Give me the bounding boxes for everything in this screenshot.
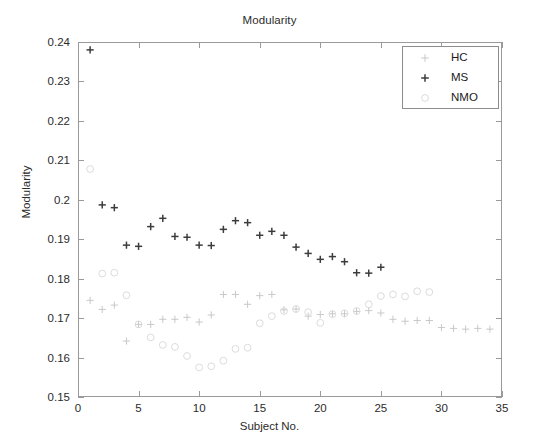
data-point (305, 313, 312, 320)
y-tick-label: 0.24 (14, 36, 70, 48)
data-point (377, 293, 384, 300)
data-point (474, 325, 481, 332)
data-point (159, 316, 166, 323)
data-point (256, 320, 263, 327)
legend[interactable]: HC MS NMO (402, 46, 499, 109)
data-point (220, 291, 227, 298)
x-tick-label: 35 (482, 402, 522, 414)
data-point (172, 344, 179, 351)
data-point (183, 314, 190, 321)
legend-label-nmo: NMO (451, 91, 478, 103)
legend-item-0[interactable]: HC (403, 48, 500, 69)
x-tick-label: 5 (119, 402, 159, 414)
series-ms (87, 46, 385, 276)
data-point (123, 292, 130, 299)
data-point (402, 293, 409, 300)
data-point (365, 270, 372, 277)
data-point (99, 306, 106, 313)
y-tick-label: 0.22 (14, 115, 70, 127)
data-point (196, 242, 203, 249)
data-point (317, 319, 324, 326)
data-point (208, 363, 215, 370)
y-tick-label: 0.23 (14, 75, 70, 87)
data-point (183, 234, 190, 241)
data-point (486, 326, 493, 333)
figure-canvas: Modularity Modularity Subject No. 0.150.… (0, 0, 539, 448)
data-point (111, 269, 118, 276)
data-point (196, 364, 203, 371)
x-tick-label: 25 (361, 402, 401, 414)
y-tick-label: 0.21 (14, 154, 70, 166)
legend-marker-nmo-icon (425, 98, 426, 99)
y-tick-label: 0.19 (14, 233, 70, 245)
data-point (377, 264, 384, 271)
data-point (353, 269, 360, 276)
data-point (317, 311, 324, 318)
data-point (389, 316, 396, 323)
y-tick-mark (78, 397, 84, 398)
data-point (268, 313, 275, 320)
data-point (329, 253, 336, 260)
data-point (268, 228, 275, 235)
x-tick-mark (502, 391, 503, 397)
data-point (232, 345, 239, 352)
data-point (426, 289, 433, 296)
data-point (401, 318, 408, 325)
data-point (208, 242, 215, 249)
data-point (171, 233, 178, 240)
x-tick-label: 0 (58, 402, 98, 414)
data-point (196, 318, 203, 325)
data-point (232, 217, 239, 224)
data-point (244, 344, 251, 351)
x-tick-label: 15 (240, 402, 280, 414)
data-point (208, 311, 215, 318)
data-point (159, 215, 166, 222)
x-tick-mark (502, 42, 503, 48)
data-point (292, 244, 299, 251)
data-point (159, 342, 166, 349)
data-point (123, 337, 130, 344)
data-point (147, 321, 154, 328)
y-tick-mark (496, 397, 502, 398)
data-point (305, 250, 312, 257)
x-tick-label: 10 (179, 402, 219, 414)
data-point (414, 317, 421, 324)
y-tick-label: 0.17 (14, 312, 70, 324)
data-point (377, 309, 384, 316)
x-tick-label: 30 (421, 402, 461, 414)
data-point (87, 297, 94, 304)
legend-marker-ms-icon (425, 78, 426, 79)
data-point (232, 291, 239, 298)
data-point (450, 325, 457, 332)
data-point (99, 270, 106, 277)
data-point (220, 226, 227, 233)
data-point (414, 288, 421, 295)
data-point (99, 201, 106, 208)
data-point (280, 232, 287, 239)
legend-marker-hc-icon (425, 58, 426, 59)
legend-label-hc: HC (451, 51, 468, 63)
y-tick-label: 0.16 (14, 352, 70, 364)
data-point (341, 258, 348, 265)
data-point (171, 316, 178, 323)
legend-item-1[interactable]: MS (403, 68, 500, 89)
data-point (462, 326, 469, 333)
data-point (244, 301, 251, 308)
legend-label-ms: MS (451, 71, 468, 83)
data-point (87, 166, 94, 173)
y-tick-label: 0.2 (14, 194, 70, 206)
y-tick-label: 0.18 (14, 273, 70, 285)
data-point (111, 301, 118, 308)
data-point (147, 223, 154, 230)
data-point (438, 324, 445, 331)
data-point (184, 353, 191, 360)
legend-item-2[interactable]: NMO (403, 88, 500, 109)
data-point (365, 301, 372, 308)
x-tick-label: 20 (300, 402, 340, 414)
data-point (220, 357, 227, 364)
data-point (135, 243, 142, 250)
data-point (390, 291, 397, 298)
data-point (268, 291, 275, 298)
data-point (256, 232, 263, 239)
data-point (123, 242, 130, 249)
